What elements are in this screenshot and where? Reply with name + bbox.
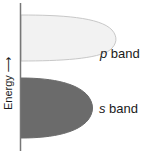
energy-axis-text: Energy	[2, 75, 14, 110]
s-band-shape	[21, 78, 93, 138]
s-band-label: s band	[99, 102, 138, 115]
band-diagram-graphic	[0, 0, 145, 158]
p-band-label: p band	[100, 47, 140, 60]
p-band-suffix: band	[107, 46, 140, 61]
energy-axis-label: Energy⟶	[1, 40, 15, 110]
arrow-up-icon: ⟶	[1, 56, 15, 72]
s-band-suffix: band	[106, 101, 139, 116]
energy-band-diagram: Energy⟶ p band s band	[0, 0, 145, 158]
